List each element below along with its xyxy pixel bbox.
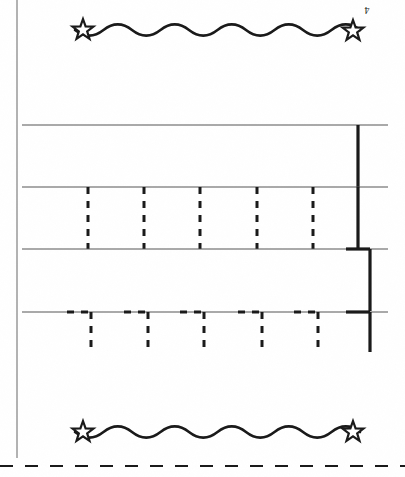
worksheet-canvas: 4	[0, 0, 405, 477]
paper-texture	[0, 0, 405, 477]
worksheet-page: 4	[0, 0, 405, 477]
page-number-text: 4	[365, 5, 370, 16]
